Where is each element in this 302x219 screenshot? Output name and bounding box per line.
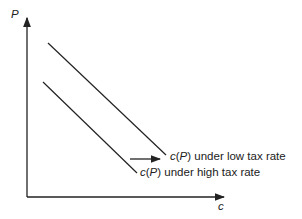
curve-label-func: c [170,150,176,162]
curve-label-rest: under high tax rate [161,166,260,178]
x-axis-label: c [218,200,224,212]
y-axis-label: P [11,8,19,20]
curve-label-arg: P [180,150,188,162]
curve-low-tax [48,43,166,155]
curve-label-rest: under low tax rate [191,150,286,162]
curve-high-tax [43,82,137,173]
curve-label-arg: P [150,166,158,178]
curve-label-high-tax: c(P) under high tax rate [140,166,260,178]
diagram-canvas [0,0,302,219]
curve-label-func: c [140,166,146,178]
curve-label-low-tax: c(P) under low tax rate [170,150,286,162]
